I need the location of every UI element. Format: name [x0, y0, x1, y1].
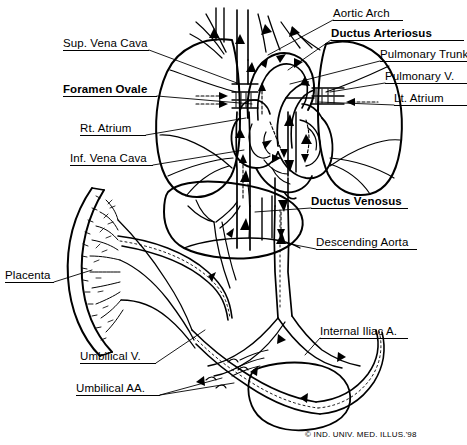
copyright-credit: © IND. UNIV. MED. ILLUS.'98 — [305, 430, 417, 439]
label-inf-vena-cava: Inf. Vena Cava — [70, 152, 147, 165]
label-internal-iliac-artery: Internal Iliac A. — [320, 325, 397, 338]
liver-shape — [164, 181, 303, 258]
anatomical-illustration — [0, 0, 467, 445]
label-aortic-arch: Aortic Arch — [333, 7, 390, 20]
label-underline-pulmonary-vein — [385, 83, 467, 84]
label-underline-ductus-venosus — [311, 208, 408, 209]
label-umbilical-vein: Umbilical V. — [80, 350, 141, 363]
label-ductus-arteriosus: Ductus Arteriosus — [331, 27, 432, 40]
label-underline-foramen-ovale — [63, 96, 157, 97]
label-underline-ductus-arteriosus — [331, 40, 464, 41]
label-underline-aortic-arch — [333, 20, 403, 21]
label-pulmonary-vein: Pulmonary V. — [385, 70, 454, 83]
label-underline-umbilical-vein — [80, 363, 156, 364]
label-pulmonary-trunk: Pulmonary Trunk — [380, 48, 467, 61]
label-underline-internal-iliac-artery — [320, 338, 408, 339]
umbilical-arteries-shape — [192, 330, 384, 414]
label-underline-pulmonary-trunk — [380, 61, 467, 62]
fetal-circulation-figure: Aortic Arch Ductus Arteriosus Pulmonary … — [0, 0, 467, 445]
left-lung-shape — [318, 42, 402, 196]
label-rt-atrium: Rt. Atrium — [80, 122, 131, 135]
foramen-ovale-shape — [232, 84, 258, 108]
label-underline-lt-atrium — [394, 105, 467, 106]
umbilical-vein-shape — [118, 222, 236, 320]
right-lung-shape — [156, 39, 240, 197]
label-underline-inf-vena-cava — [70, 165, 153, 166]
flow-arrows — [196, 24, 346, 403]
label-underline-sup-vena-cava — [63, 50, 149, 51]
label-foramen-ovale: Foramen Ovale — [63, 83, 147, 96]
label-umbilical-arteries: Umbilical AA. — [76, 382, 145, 395]
label-sup-vena-cava: Sup. Vena Cava — [63, 37, 148, 50]
label-placenta: Placenta — [5, 269, 51, 282]
label-underline-descending-aorta — [316, 249, 417, 250]
label-descending-aorta: Descending Aorta — [316, 236, 408, 249]
great-vessel-branches — [190, 8, 320, 62]
label-underline-umbilical-arteries — [76, 395, 160, 396]
label-underline-placenta — [5, 282, 54, 283]
label-lt-atrium: Lt. Atrium — [394, 92, 444, 105]
label-ductus-venosus: Ductus Venosus — [311, 195, 402, 208]
label-underline-rt-atrium — [80, 135, 146, 136]
